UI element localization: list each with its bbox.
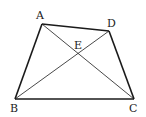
label-b: B [10,102,18,115]
diagonal-bd [15,31,109,99]
diagonals [15,24,134,99]
quadrilateral-diagram: A D E B C [0,0,146,117]
side-ba [15,24,42,99]
label-d: D [107,17,116,30]
label-a: A [35,9,45,22]
side-ad [42,24,109,31]
label-e: E [74,39,82,52]
label-c: C [129,102,137,115]
sides [15,24,134,99]
